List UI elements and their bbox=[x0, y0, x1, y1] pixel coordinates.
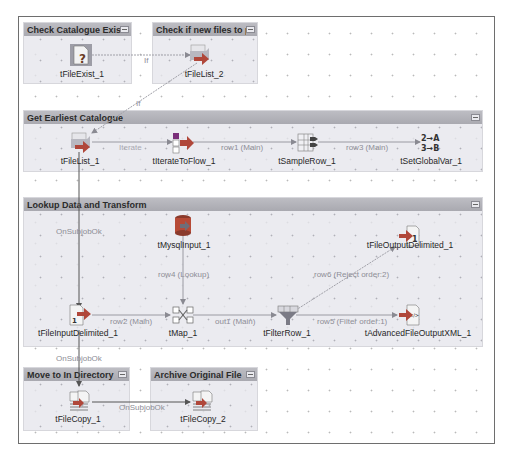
link-label-row1: row1 (Main) bbox=[221, 143, 263, 152]
component-label: tFilterRow_1 bbox=[263, 328, 311, 338]
subjob-header[interactable]: Move to In Directory bbox=[24, 368, 129, 381]
link-label-row3: row3 (Main) bbox=[346, 143, 388, 152]
link-label-if-2: If bbox=[136, 99, 140, 108]
component-tfilelist-1[interactable] bbox=[69, 131, 93, 155]
component-tadvancedfileoutputxml[interactable]: </> bbox=[397, 303, 421, 327]
link-label-row4: row4 (Lookup) bbox=[158, 270, 209, 279]
component-label: tFileExist_1 bbox=[60, 69, 104, 79]
subjob-title: Get Earliest Catalogue bbox=[24, 113, 471, 123]
component-label: tMysqlInput_1 bbox=[158, 240, 211, 250]
component-label: tIterateToFlow_1 bbox=[153, 156, 216, 166]
file-list-icon bbox=[188, 43, 212, 67]
iterate-to-flow-icon bbox=[171, 131, 195, 155]
subjob-title: Check if new files to pr... bbox=[153, 25, 246, 35]
link-label-iterate: Iterate bbox=[119, 143, 142, 152]
collapse-button[interactable] bbox=[246, 371, 255, 378]
component-tsamplerow[interactable] bbox=[296, 131, 320, 155]
component-label: tFileList_1 bbox=[61, 156, 100, 166]
map-icon bbox=[171, 303, 195, 327]
link-label-row2: row2 (Main) bbox=[110, 317, 152, 326]
component-label: tSetGlobalVar_1 bbox=[400, 156, 462, 166]
svg-text:?: ? bbox=[79, 52, 86, 66]
link-label-if-1: If bbox=[144, 56, 148, 65]
sample-row-icon bbox=[296, 131, 320, 155]
collapse-button[interactable] bbox=[471, 201, 480, 208]
file-input-delimited-icon: 1 bbox=[68, 303, 92, 327]
subjob-header[interactable]: Check if new files to pr... bbox=[153, 23, 257, 36]
svg-text:3→B: 3→B bbox=[421, 144, 439, 153]
link-label-onsubjobok-1: OnSubjobOk bbox=[56, 227, 102, 236]
subjob-title: Move to In Directory bbox=[24, 370, 118, 380]
file-exist-icon: ? bbox=[69, 43, 93, 67]
subjob-title: Check Catalogue Exists bbox=[24, 25, 120, 35]
component-label: tMap_1 bbox=[169, 328, 197, 338]
subjob-header[interactable]: Check Catalogue Exists bbox=[24, 23, 131, 36]
component-label: tFileCopy_1 bbox=[55, 414, 100, 424]
component-label: tFileCopy_2 bbox=[180, 414, 225, 424]
component-tmap[interactable] bbox=[171, 303, 195, 327]
file-copy-icon bbox=[67, 389, 91, 413]
component-tfilelist-2[interactable] bbox=[188, 43, 212, 67]
link-label-onsubjobok-3: OnSubjobOk bbox=[119, 403, 165, 412]
component-tfilecopy-1[interactable] bbox=[67, 389, 91, 413]
component-label: tAdvancedFileOutputXML_1 bbox=[365, 328, 471, 338]
component-tmysqlinput[interactable] bbox=[171, 214, 195, 238]
component-tfileexist[interactable]: ? bbox=[69, 43, 93, 67]
subjob-header[interactable]: Lookup Data and Transform bbox=[24, 198, 482, 211]
link-label-row5: row5 (Filter order:1) bbox=[317, 317, 387, 326]
collapse-button[interactable] bbox=[471, 114, 480, 121]
svg-text:2→A: 2→A bbox=[421, 134, 440, 143]
component-label: tFileList_2 bbox=[185, 69, 224, 79]
component-titeratetoflow[interactable] bbox=[171, 131, 195, 155]
component-tfilecopy-2[interactable] bbox=[190, 389, 214, 413]
component-tfileinputdelimited[interactable]: 1 bbox=[68, 303, 92, 327]
component-label: tFileInputDelimited_1 bbox=[38, 328, 118, 338]
set-global-var-icon: 2→A 3→B bbox=[418, 131, 442, 155]
component-tfilterrow[interactable] bbox=[276, 303, 300, 327]
subjob-header[interactable]: Get Earliest Catalogue bbox=[24, 111, 482, 124]
component-label: tSampleRow_1 bbox=[278, 156, 336, 166]
link-label-onsubjobok-2: OnSubjobOk bbox=[56, 354, 102, 363]
subjob-title: Archive Original File bbox=[151, 370, 246, 380]
collapse-button[interactable] bbox=[118, 371, 127, 378]
svg-text:1: 1 bbox=[72, 317, 77, 325]
subjob-header[interactable]: Archive Original File bbox=[151, 368, 257, 381]
component-label: tFileOutputDelimited_1 bbox=[367, 240, 453, 250]
database-icon bbox=[171, 214, 195, 238]
collapse-button[interactable] bbox=[246, 26, 255, 33]
subjob-title: Lookup Data and Transform bbox=[24, 200, 471, 210]
collapse-button[interactable] bbox=[120, 26, 129, 33]
xml-output-icon: </> bbox=[397, 303, 421, 327]
component-tsetglobalvar[interactable]: 2→A 3→B bbox=[418, 131, 442, 155]
link-label-out1: out1 (Main) bbox=[215, 317, 255, 326]
file-copy-icon bbox=[190, 389, 214, 413]
file-list-icon bbox=[69, 131, 93, 155]
link-label-row6: row6 (Reject order:2) bbox=[314, 270, 389, 279]
filter-icon bbox=[276, 303, 300, 327]
